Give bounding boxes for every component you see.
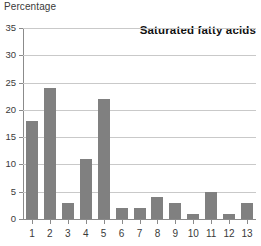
bar: [62, 203, 74, 219]
bar: [134, 208, 146, 219]
bar: [169, 203, 181, 219]
bar: [205, 192, 217, 219]
x-tick-label: 13: [236, 228, 258, 240]
y-tick-label: 20: [0, 105, 16, 115]
bar: [223, 214, 235, 219]
x-tick-mark: [193, 220, 194, 224]
bar: [98, 99, 110, 219]
x-tick-mark: [68, 220, 69, 224]
bar: [116, 208, 128, 219]
x-tick-mark: [157, 220, 158, 224]
gridline: [23, 110, 256, 111]
x-tick-mark: [122, 220, 123, 224]
gridline: [23, 137, 256, 138]
bar: [80, 159, 92, 219]
y-tick-label: 25: [0, 78, 16, 88]
x-tick-mark: [104, 220, 105, 224]
y-tick-label: 30: [0, 50, 16, 60]
y-tick-label: 15: [0, 132, 16, 142]
bar: [187, 214, 199, 219]
x-tick-mark: [50, 220, 51, 224]
x-tick-mark: [86, 220, 87, 224]
x-tick-mark: [140, 220, 141, 224]
y-tick-label: 0: [0, 214, 16, 224]
chart-container: Percentage Saturated fatty acids 0510152…: [0, 0, 261, 246]
x-tick-mark: [247, 220, 248, 224]
y-tick-label: 5: [0, 187, 16, 197]
gridline: [23, 28, 256, 29]
bar: [44, 88, 56, 219]
x-tick-mark: [32, 220, 33, 224]
gridline: [23, 164, 256, 165]
y-tick-label: 35: [0, 23, 16, 33]
gridline: [23, 83, 256, 84]
x-tick-mark: [229, 220, 230, 224]
gridline: [23, 55, 256, 56]
y-axis-title: Percentage: [4, 1, 56, 13]
gridline: [23, 192, 256, 193]
y-tick-label: 10: [0, 159, 16, 169]
plot-area: [23, 28, 256, 219]
bar: [151, 197, 163, 219]
x-tick-mark: [175, 220, 176, 224]
bar: [26, 121, 38, 219]
x-tick-mark: [211, 220, 212, 224]
bar: [241, 203, 253, 219]
